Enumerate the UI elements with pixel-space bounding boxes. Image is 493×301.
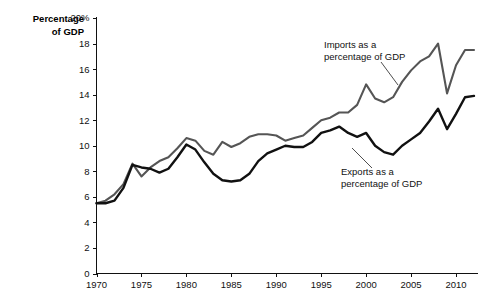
x-tick-label: 1975 (131, 279, 152, 290)
annotations-group: Imports as apercentage of GDPExports as … (324, 39, 422, 189)
exports-annotation-line1: Exports as a (341, 166, 395, 177)
exports-annotation-line2: percentage of GDP (341, 178, 422, 189)
x-tick-label: 1990 (266, 279, 287, 290)
imports-annotation: Imports as apercentage of GDP (324, 39, 405, 85)
chart-container: Percentage of GDP 02468101214161820% 197… (0, 0, 493, 301)
y-tick-label: 4 (84, 217, 89, 228)
imports-annotation-line2: percentage of GDP (324, 51, 405, 62)
imports-annotation-line1: Imports as a (324, 39, 377, 50)
y-tick-label: 2 (84, 242, 89, 253)
exports-annotation-leader-line (352, 148, 372, 168)
y-tick-label: 6 (84, 191, 89, 202)
x-tick-label: 2005 (401, 279, 422, 290)
x-tick-label: 1970 (86, 279, 107, 290)
y-axis-ticks: 02468101214161820% (70, 12, 96, 279)
y-axis-title-line2: of GDP (52, 26, 85, 37)
exports-annotation: Exports as apercentage of GDP (341, 148, 422, 189)
x-tick-label: 2000 (356, 279, 377, 290)
x-tick-label: 1985 (221, 279, 242, 290)
x-axis-ticks: 197019751980198519901995200020052010 (86, 274, 467, 290)
y-tick-label: 14 (79, 89, 90, 100)
y-tick-label: 10 (79, 140, 90, 151)
x-tick-label: 2010 (445, 279, 466, 290)
y-tick-label: 20% (70, 12, 90, 23)
x-tick-label: 1995 (311, 279, 332, 290)
imports-annotation-leader-line (381, 62, 398, 85)
y-tick-label: 0 (84, 268, 89, 279)
x-tick-label: 1980 (176, 279, 197, 290)
y-tick-label: 16 (79, 64, 90, 75)
y-tick-label: 8 (84, 166, 89, 177)
y-tick-label: 12 (79, 115, 90, 126)
y-tick-label: 18 (79, 38, 90, 49)
gdp-trade-line-chart: Percentage of GDP 02468101214161820% 197… (0, 0, 493, 301)
